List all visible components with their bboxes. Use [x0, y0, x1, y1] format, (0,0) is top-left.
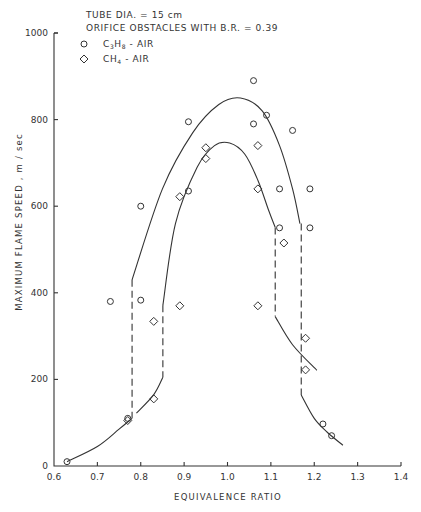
diamond-data-point	[280, 239, 288, 247]
y-tick-label: 400	[31, 288, 48, 298]
tube-diameter-note: TUBE DIA. = 15 cm	[85, 10, 183, 20]
y-ticks: 02004006008001000	[25, 28, 58, 471]
annotation-block: TUBE DIA. = 15 cm ORIFICE OBSTACLES WITH…	[80, 10, 278, 65]
fit-curve-lower-right-branch	[301, 395, 343, 445]
legend-item-methane: CH4 - AIR	[80, 54, 149, 65]
diamond-data-point	[302, 366, 310, 374]
circle-data-point	[307, 186, 313, 192]
x-tick-label: 0.9	[177, 472, 192, 482]
circle-data-point	[138, 203, 144, 209]
circle-data-point	[138, 297, 144, 303]
circle-data-point	[277, 186, 283, 192]
y-tick-label: 200	[31, 374, 48, 384]
axis-lines	[54, 33, 401, 466]
x-axis-title: EQUIVALENCE RATIO	[174, 492, 282, 502]
circle-marker-icon	[81, 41, 87, 47]
circle-data-point	[320, 421, 326, 427]
y-tick-label: 600	[31, 201, 48, 211]
diamond-data-point	[302, 334, 310, 342]
x-tick-label: 0.7	[90, 472, 104, 482]
x-tick-label: 1.1	[264, 472, 278, 482]
y-tick-label: 800	[31, 115, 48, 125]
circle-data-point	[290, 127, 296, 133]
legend-label-propane: C3H8 - AIR	[103, 39, 154, 50]
legend-label-methane: CH4 - AIR	[103, 54, 149, 65]
circle-data-point	[185, 119, 191, 125]
x-ticks: 0.60.70.80.91.01.11.21.31.4	[47, 462, 409, 482]
diamond-data-point	[150, 395, 158, 403]
obstacle-note: ORIFICE OBSTACLES WITH B.R. = 0.39	[86, 23, 278, 33]
diamond-data-point	[202, 155, 210, 163]
flame-speed-chart: 02004006008001000 0.60.70.80.91.01.11.21…	[0, 0, 421, 512]
fit-curve-lower-right-branch	[275, 317, 317, 371]
plot-axes: 02004006008001000 0.60.70.80.91.01.11.21…	[25, 28, 408, 482]
circle-data-point	[277, 225, 283, 231]
y-axis-title: MAXIMUM FLAME SPEED , m / sec	[14, 133, 24, 311]
diamond-data-point	[254, 142, 262, 150]
data-points	[64, 78, 335, 465]
diamond-data-point	[254, 302, 262, 310]
diamond-marker-icon	[80, 55, 88, 63]
x-tick-label: 1.4	[394, 472, 409, 482]
x-tick-label: 0.6	[47, 472, 62, 482]
fit-curve-lower-left-branch	[67, 418, 132, 461]
y-tick-label: 1000	[25, 28, 48, 38]
circle-data-point	[251, 121, 257, 127]
x-tick-label: 1.0	[220, 472, 235, 482]
circle-data-point	[251, 78, 257, 84]
fit-curve-upper-branch	[163, 142, 275, 305]
diamond-data-point	[150, 317, 158, 325]
circle-data-point	[307, 225, 313, 231]
x-tick-label: 0.8	[134, 472, 149, 482]
legend: C3H8 - AIR CH4 - AIR	[80, 39, 154, 65]
y-tick-label: 0	[42, 461, 48, 471]
circle-data-point	[107, 298, 113, 304]
x-tick-label: 1.2	[307, 472, 321, 482]
legend-item-propane: C3H8 - AIR	[81, 39, 154, 50]
x-tick-label: 1.3	[350, 472, 364, 482]
fit-curves	[67, 98, 343, 462]
fit-curve-lower-left-branch	[136, 377, 162, 413]
diamond-data-point	[176, 302, 184, 310]
